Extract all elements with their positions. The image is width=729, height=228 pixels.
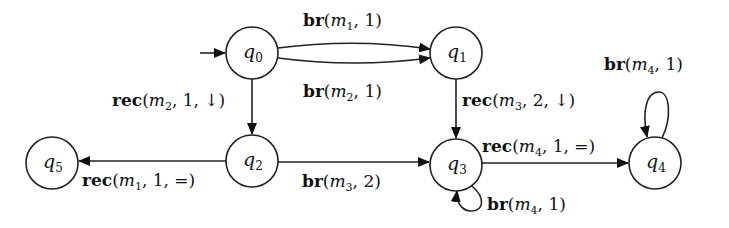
label-rec-m3-2-down: rec(m3, 2, ↓) — [462, 90, 575, 113]
state-q4: q4 — [629, 137, 681, 189]
state-q0: q0 — [226, 27, 278, 79]
label-br-m2-1: br(m2, 1) — [303, 81, 382, 104]
label-br-m4-1-q4: br(m4, 1) — [604, 54, 683, 77]
label-rec-m4-1-eq: rec(m4, 1, =) — [482, 136, 595, 159]
edge-q4-selfloop — [645, 92, 669, 138]
state-q3: q3 — [430, 139, 482, 191]
state-q2: q2 — [226, 135, 278, 187]
label-rec-m2-1-down: rec(m2, 1, ↓) — [112, 90, 225, 113]
label-br-m1-1: br(m1, 1) — [303, 10, 382, 33]
label-br-m4-1-q3: br(m4, 1) — [487, 194, 566, 217]
label-rec-m1-1-eq: rec(m1, 1, =) — [82, 170, 195, 193]
edge-q0-q1-m2 — [278, 58, 430, 63]
state-q1: q1 — [430, 27, 482, 79]
label-br-m3-2: br(m3, 2) — [302, 171, 381, 194]
state-q5: q5 — [26, 137, 78, 189]
edge-q0-q1-m1 — [278, 43, 430, 49]
state-diagram: q0 q1 q2 q3 q4 q5 br(m1, 1) br(m2, 1) re… — [0, 0, 729, 228]
